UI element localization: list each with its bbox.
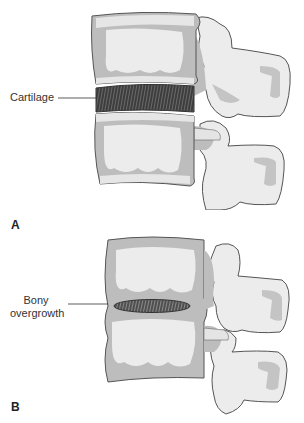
panel-letter-a: A bbox=[11, 218, 20, 232]
vertebrae-illustration-a bbox=[0, 0, 304, 210]
cartilage-label: Cartilage bbox=[10, 91, 54, 104]
panel-a-healthy-disc: Cartilage bbox=[0, 0, 304, 210]
bony-overgrowth-label-line2: overgrowth bbox=[10, 307, 64, 319]
bony-overgrowth-label-line1: Bony bbox=[23, 294, 48, 306]
bony-overgrowth-label: Bony overgrowth bbox=[10, 294, 62, 320]
panel-letter-b: B bbox=[11, 400, 20, 414]
